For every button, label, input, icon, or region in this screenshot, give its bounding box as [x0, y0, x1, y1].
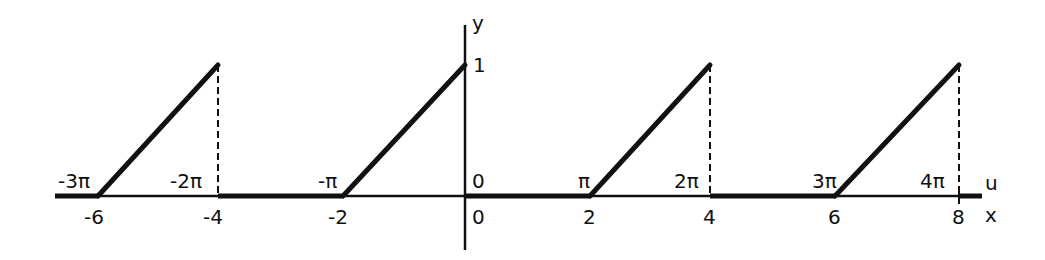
u-tick: π: [578, 169, 590, 193]
x-axis-label: x: [985, 203, 997, 227]
x-tick: 6: [828, 205, 841, 229]
x-tick: -6: [84, 205, 104, 229]
x-tick: 8: [952, 205, 965, 229]
y-tick-1: 1: [473, 53, 486, 77]
sawtooth-diagram: y 1 u x -3π -2π -π 0 π 2π 3π 4π -6 -4 -2…: [0, 0, 1045, 260]
x-tick: 4: [703, 205, 716, 229]
x-tick: -4: [203, 205, 223, 229]
u-tick: 2π: [674, 169, 699, 193]
u-tick: 3π: [812, 169, 837, 193]
u-tick: -2π: [170, 169, 202, 193]
x-tick: 2: [583, 205, 596, 229]
y-axis-label: y: [472, 11, 484, 35]
x-tick: -2: [328, 205, 348, 229]
x-origin: 0: [472, 205, 485, 229]
u-tick: -3π: [58, 169, 90, 193]
u-tick: 4π: [920, 169, 945, 193]
u-tick: -π: [318, 169, 337, 193]
u-origin: 0: [472, 169, 485, 193]
u-axis-label: u: [985, 171, 998, 195]
ramp-2: [343, 65, 465, 196]
